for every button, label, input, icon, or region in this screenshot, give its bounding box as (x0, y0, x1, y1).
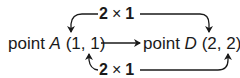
top-label-times: × (108, 5, 125, 22)
top-label-factor: 2 (99, 5, 108, 22)
point-a-prefix: point (8, 34, 45, 53)
transformation-diagram: 2×1 point A (1, 1) point D (2, 2) 2×1 (0, 0, 240, 78)
bottom-label-value: 1 (125, 61, 134, 78)
top-label-value: 1 (125, 5, 134, 22)
point-a: point A (1, 1) (8, 35, 105, 52)
bottom-label: 2×1 (99, 62, 134, 78)
point-a-coords: (1, 1) (66, 34, 106, 53)
point-a-name: A (50, 34, 61, 53)
top-left-arrow (71, 14, 98, 32)
point-d-coords: (2, 2) (202, 34, 240, 53)
point-d-name: D (185, 34, 197, 53)
bottom-left-arrow (89, 54, 98, 70)
top-label: 2×1 (99, 6, 134, 22)
point-d-prefix: point (143, 34, 180, 53)
top-right-arrow (140, 14, 209, 32)
bottom-label-factor: 2 (99, 61, 108, 78)
point-d: point D (2, 2) (143, 35, 240, 52)
bottom-right-arrow (140, 54, 228, 70)
bottom-label-times: × (108, 61, 125, 78)
